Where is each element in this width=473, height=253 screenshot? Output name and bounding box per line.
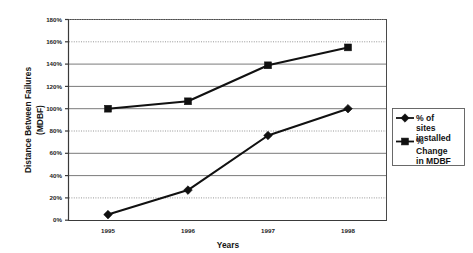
y-tick-label-60: 60% — [50, 149, 63, 156]
data-point-mdbf-1998 — [345, 44, 352, 51]
x-tick-label-1998: 1998 — [341, 227, 355, 234]
y-tick-labels: 180% 160% 140% 120% 100% 80% 60% 40% 20%… — [46, 16, 62, 224]
data-point-mdbf-1995 — [105, 105, 112, 112]
legend-label-sites-line2: sites — [416, 123, 436, 133]
y-tick-label-180: 180% — [46, 16, 62, 23]
legend-label-mdbf-line3: in MDBF — [416, 156, 451, 166]
chart-legend[interactable]: % of sites installed % Change in MDBF — [393, 109, 465, 167]
y-tick-label-160: 160% — [46, 38, 62, 45]
legend-label-mdbf-line2: Change — [416, 146, 448, 156]
x-tick-label-1997: 1997 — [261, 227, 275, 234]
y-tick-label-140: 140% — [46, 60, 62, 67]
data-point-mdbf-1997 — [265, 62, 272, 69]
chart-container: 180% 160% 140% 120% 100% 80% 60% 40% 20%… — [0, 0, 473, 253]
y-tick-label-40: 40% — [50, 172, 63, 179]
y-tick-label-0: 0% — [53, 216, 62, 223]
x-tick-labels: 1995 1996 1997 1998 — [101, 227, 355, 234]
x-tick-label-1995: 1995 — [101, 227, 115, 234]
legend-label-mdbf-line1: % — [416, 136, 424, 146]
y-axis-title-line1: Distance Between Failures — [23, 67, 33, 173]
y-tick-label-80: 80% — [50, 127, 63, 134]
x-axis-title: Years — [217, 240, 240, 250]
y-tick-label-20: 20% — [50, 194, 63, 201]
y-axis-title-line2: (MDBF) — [35, 105, 45, 135]
data-point-mdbf-1996 — [185, 98, 192, 105]
line-chart: 180% 160% 140% 120% 100% 80% 60% 40% 20%… — [0, 0, 473, 253]
legend-label-sites-line1: % of — [416, 113, 434, 123]
y-tick-label-120: 120% — [46, 83, 62, 90]
y-tick-label-100: 100% — [46, 105, 62, 112]
square-marker-icon — [402, 138, 409, 145]
x-tick-label-1996: 1996 — [181, 227, 195, 234]
